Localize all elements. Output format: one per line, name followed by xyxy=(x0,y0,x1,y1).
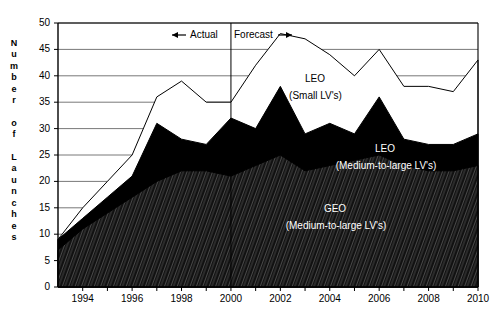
leo-ml-label-line2: (Medium-to-large LV's) xyxy=(320,160,452,171)
forecast-label: Forecast xyxy=(234,29,273,40)
actual-label: Actual xyxy=(190,29,218,40)
leo-ml-label-line1: LEO xyxy=(355,143,415,154)
actual-arrow-head xyxy=(172,32,178,38)
geo-ml-label-line2: (Medium-to-large LV's) xyxy=(270,220,402,231)
geo-ml-label-line1: GEO xyxy=(305,203,365,214)
leo-small-label-line2: (Small LV's) xyxy=(268,90,363,101)
chart-root: Number of Launches 05101520253035404550 … xyxy=(0,0,495,325)
leo-small-label-line1: LEO xyxy=(285,73,345,84)
